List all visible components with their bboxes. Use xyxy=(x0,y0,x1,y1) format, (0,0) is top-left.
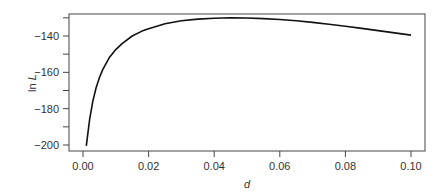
y-axis-label: ln L xyxy=(26,74,38,92)
y-axis-ticks: −140−160−180−200 xyxy=(34,18,69,151)
x-tick-label: 0.08 xyxy=(335,160,356,172)
x-axis-ticks: 0.000.020.040.060.080.10 xyxy=(72,151,421,172)
line-chart: −140−160−180−200 0.000.020.040.060.080.1… xyxy=(0,0,440,196)
x-tick-label: 0.10 xyxy=(400,160,421,172)
log-likelihood-curve xyxy=(86,18,411,146)
x-tick-label: 0.00 xyxy=(72,160,93,172)
y-tick-label: −140 xyxy=(34,30,59,42)
y-tick-label: −180 xyxy=(34,103,59,115)
y-tick-label: −200 xyxy=(34,139,59,151)
plot-frame xyxy=(69,14,425,151)
x-tick-label: 0.06 xyxy=(269,160,290,172)
x-tick-label: 0.04 xyxy=(203,160,224,172)
x-tick-label: 0.02 xyxy=(138,160,159,172)
x-axis-label: d xyxy=(244,178,251,190)
